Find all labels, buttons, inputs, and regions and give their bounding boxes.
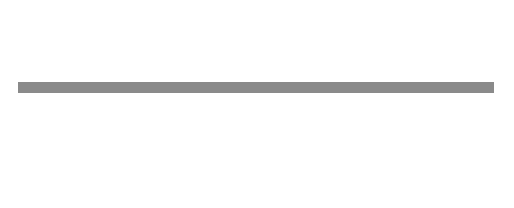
ground-bar [18, 82, 494, 93]
